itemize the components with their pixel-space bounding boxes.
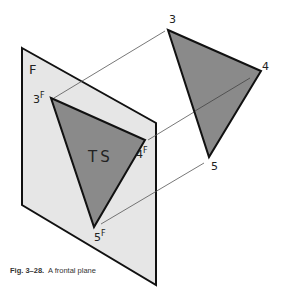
spatial-triangle — [168, 30, 261, 157]
figure-caption-text: A frontal plane — [48, 266, 96, 275]
ts-label: TS — [87, 148, 113, 166]
vertex-5-label: 5 — [211, 160, 218, 173]
plane-label-f: F — [29, 62, 36, 77]
projection-line-3 — [54, 31, 165, 98]
figure-caption: Fig. 3–28. A frontal plane — [10, 266, 96, 275]
figure-number: Fig. 3–28. — [10, 266, 44, 275]
frontal-plane-diagram: F TS 3F 4F 5F 3 4 5 — [0, 0, 283, 299]
vertex-3-label: 3 — [169, 13, 176, 26]
vertex-4-label: 4 — [262, 60, 269, 73]
